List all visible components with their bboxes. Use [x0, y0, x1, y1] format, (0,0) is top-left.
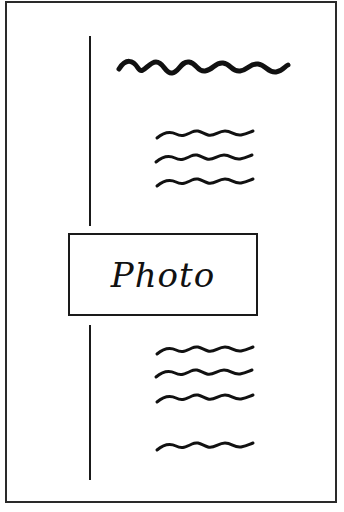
vertical-rule-top: [89, 36, 91, 226]
vertical-rule-bottom: [89, 325, 91, 480]
photo-placeholder: Photo: [68, 233, 258, 316]
photo-label: Photo: [111, 255, 215, 295]
